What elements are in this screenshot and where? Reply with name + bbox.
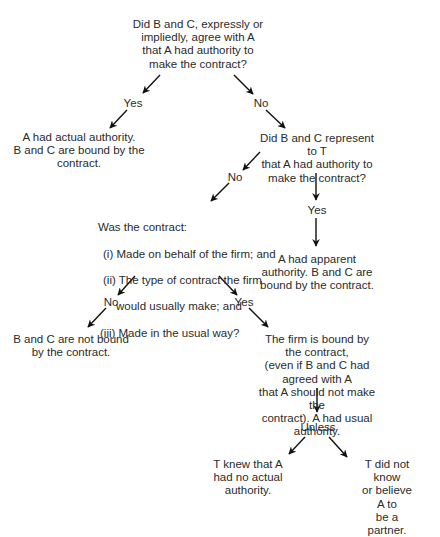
arrow-q1-yes-lower xyxy=(110,110,127,128)
condition-item: (ii) The type of contract the firm xyxy=(98,274,276,287)
edge-label-yes: Yes xyxy=(235,296,254,309)
edge-label-yes: Yes xyxy=(308,204,327,217)
edge-label-no: No xyxy=(228,171,243,184)
arrow-q1-no-upper xyxy=(234,75,253,94)
question-title: Was the contract: xyxy=(98,221,276,234)
result-actual-authority: A had actual authority. B and C are boun… xyxy=(13,131,144,171)
question-agreed-authority: Did B and C, expressly or impliedly, agr… xyxy=(133,18,263,71)
edge-label-yes: Yes xyxy=(124,97,143,110)
edge-label-no: No xyxy=(104,296,119,309)
exception-did-not-know-partner: T did not know or believe A to be a part… xyxy=(361,458,414,537)
arrow-q1-yes-upper xyxy=(143,75,160,93)
unless-label: Unless xyxy=(300,421,335,434)
result-not-bound: B and C are not bound by the contract. xyxy=(13,333,129,359)
arrow-unless-right xyxy=(329,437,347,457)
arrow-q2-no-lower xyxy=(211,183,229,201)
result-apparent-authority: A had apparent authority. B and C are bo… xyxy=(260,253,374,293)
condition-item: (i) Made on behalf of the firm; and xyxy=(98,248,276,261)
question-contract-conditions: Was the contract: (i) Made on behalf of … xyxy=(98,208,276,353)
question-represented-authority: Did B and C represent to T that A had au… xyxy=(256,132,379,185)
exception-knew-no-authority: T knew that A had no actual authority. xyxy=(213,458,282,498)
edge-label-no: No xyxy=(254,97,269,110)
arrow-unless-left xyxy=(289,437,305,454)
arrow-q1-no-lower xyxy=(266,110,285,128)
